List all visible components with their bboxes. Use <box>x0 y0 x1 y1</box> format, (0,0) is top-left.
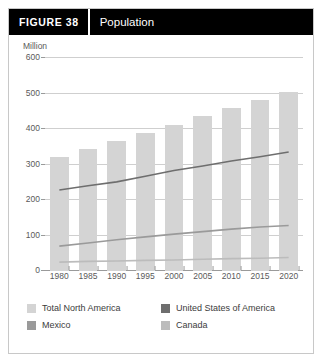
x-tick-mark <box>212 266 213 270</box>
lines-layer <box>45 58 303 271</box>
legend-swatch <box>27 304 36 313</box>
legend-swatch <box>161 321 170 330</box>
legend-swatch <box>161 304 170 313</box>
plot-region: 0100200300400500600 <box>45 58 303 271</box>
legend-item: Total North America <box>27 303 161 313</box>
x-tick-label: 2015 <box>251 271 270 281</box>
legend-swatch <box>27 321 36 330</box>
figure-number: FIGURE 38 <box>9 16 88 28</box>
y-tick-label: 400 <box>26 123 40 133</box>
series-line <box>59 152 288 190</box>
x-tick-label: 1985 <box>79 271 98 281</box>
x-tick-label: 1995 <box>136 271 155 281</box>
x-tick-label: 2005 <box>193 271 212 281</box>
legend-item: United States of America <box>161 303 295 313</box>
x-tick-label: 1990 <box>107 271 126 281</box>
x-tick-mark <box>97 266 98 270</box>
figure-card: FIGURE 38 Population Million 01002003004… <box>8 8 314 354</box>
y-axis-unit-label: Million <box>23 41 47 51</box>
legend-label: United States of America <box>176 303 275 313</box>
x-tick-mark <box>269 266 270 270</box>
x-tick-mark <box>183 266 184 270</box>
x-tick-mark <box>241 266 242 270</box>
y-tick-label: 500 <box>26 88 40 98</box>
series-line <box>59 226 288 247</box>
y-tick-label: 600 <box>26 52 40 62</box>
x-tick-label: 2020 <box>279 271 298 281</box>
series-line <box>59 258 288 263</box>
x-tick-mark <box>126 266 127 270</box>
x-tick-mark <box>69 266 70 270</box>
chart-area: Million 0100200300400500600 198019851990… <box>9 36 313 299</box>
figure-title: Population <box>90 16 154 28</box>
y-tick-label: 200 <box>26 194 40 204</box>
x-tick-mark <box>155 266 156 270</box>
y-tick-label: 100 <box>26 230 40 240</box>
x-tick-label: 2010 <box>222 271 241 281</box>
legend-label: Mexico <box>42 320 71 330</box>
figure-header: FIGURE 38 Population <box>9 9 313 35</box>
legend-label: Canada <box>176 320 208 330</box>
chart-legend: Total North AmericaUnited States of Amer… <box>9 303 313 330</box>
x-axis: 198019851990199520002005201020152020 <box>45 271 303 285</box>
legend-item: Mexico <box>27 320 161 330</box>
x-tick-label: 1980 <box>50 271 69 281</box>
y-tick-label: 0 <box>35 265 40 275</box>
x-tick-label: 2000 <box>165 271 184 281</box>
legend-item: Canada <box>161 320 295 330</box>
x-tick-mark <box>298 266 299 270</box>
legend-label: Total North America <box>42 303 121 313</box>
y-tick-label: 300 <box>26 159 40 169</box>
